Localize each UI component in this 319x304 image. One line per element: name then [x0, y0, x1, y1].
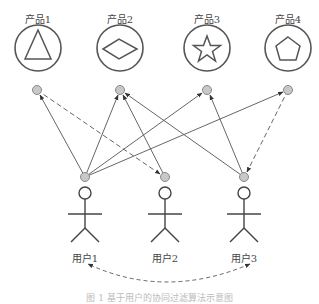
user-3-label: 用户3	[231, 250, 257, 265]
edge-user1-product1	[40, 95, 85, 177]
user-1-figure-icon	[68, 187, 102, 242]
user-2-node	[161, 173, 170, 182]
product-3-node	[203, 86, 212, 95]
user-nodes	[81, 173, 249, 182]
product-2-label: 产品2	[107, 11, 133, 26]
figure-caption: 图 1 基于用户的协同过滤算法示意图	[86, 291, 232, 304]
product-4-node	[284, 86, 293, 95]
user-3-node	[240, 173, 249, 182]
product-3-icon-circle	[184, 25, 230, 71]
user-figures	[68, 187, 261, 242]
user-1-node	[81, 173, 90, 182]
product-1-label: 产品1	[25, 11, 51, 26]
diamond-icon	[103, 39, 137, 59]
product-2-icon-circle	[97, 25, 143, 71]
user-2-label: 用户2	[152, 250, 178, 265]
product-4-icon-circle	[265, 25, 311, 71]
pentagon-icon	[276, 37, 300, 60]
user-1-label: 用户1	[72, 250, 98, 265]
triangle-icon	[25, 30, 51, 59]
user-3-figure-icon	[227, 187, 261, 242]
product-2-node	[116, 86, 125, 95]
product-nodes	[33, 86, 293, 95]
edge-product4-user3	[247, 90, 288, 172]
edge-user2-product2	[123, 95, 165, 177]
product-1-icon-circle	[15, 25, 61, 71]
star-icon	[194, 36, 221, 61]
product-4-label: 产品4	[275, 11, 301, 26]
edge-user3-user1-curve	[88, 264, 250, 282]
user-2-figure-icon	[148, 187, 182, 242]
product-1-node	[33, 86, 42, 95]
product-3-label: 产品3	[194, 11, 220, 26]
